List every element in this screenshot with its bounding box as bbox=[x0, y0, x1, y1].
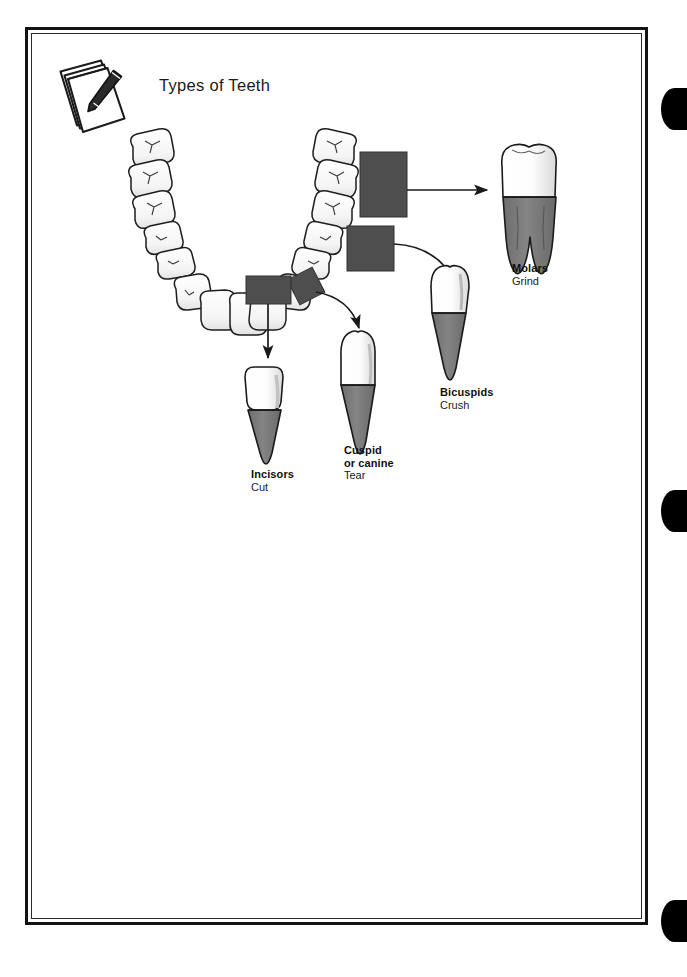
page-canvas: Types of Teeth bbox=[0, 0, 687, 977]
edge-tab-marker-2 bbox=[661, 490, 687, 532]
incisors-name: Incisors bbox=[251, 468, 294, 481]
bicuspids-function: Crush bbox=[440, 399, 493, 412]
page-header: Types of Teeth bbox=[55, 55, 355, 135]
page-frame-inner bbox=[31, 33, 642, 919]
molars-name: Molars bbox=[512, 262, 548, 275]
cuspid-function: Tear bbox=[344, 469, 394, 482]
callout-label-incisors: Incisors Cut bbox=[251, 468, 294, 494]
bicuspids-name: Bicuspids bbox=[440, 386, 493, 399]
callout-label-molars: Molars Grind bbox=[512, 262, 548, 288]
page-title: Types of Teeth bbox=[159, 76, 270, 95]
notepad-pen-icon bbox=[55, 55, 127, 133]
incisors-function: Cut bbox=[251, 481, 294, 494]
edge-tab-marker-1 bbox=[661, 88, 687, 130]
edge-tab-marker-3 bbox=[661, 900, 687, 942]
callout-label-cuspid: Cuspid or canine Tear bbox=[344, 444, 394, 482]
molars-function: Grind bbox=[512, 275, 548, 288]
cuspid-name-line1: Cuspid bbox=[344, 444, 394, 457]
callout-label-bicuspids: Bicuspids Crush bbox=[440, 386, 493, 412]
cuspid-name-line2: or canine bbox=[344, 457, 394, 470]
